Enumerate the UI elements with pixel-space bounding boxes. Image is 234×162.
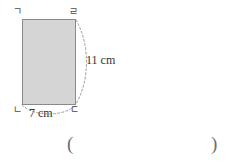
vertex-label-top-right: ㄹ [69,7,78,17]
dimension-label-width: 7 cm [29,107,53,120]
answer-blank-close-paren: ) [211,134,217,153]
vertex-label-bottom-left: ㄴ [13,105,22,115]
height-dimension-arc [76,20,87,104]
figure-canvas [0,0,234,162]
vertex-label-top-left: ㄱ [13,7,22,17]
answer-blank-open-paren: ( [67,134,73,153]
rectangle-shape [23,20,76,105]
vertex-label-bottom-right: ㄷ [70,105,79,115]
dimension-label-height: 11 cm [86,54,115,67]
